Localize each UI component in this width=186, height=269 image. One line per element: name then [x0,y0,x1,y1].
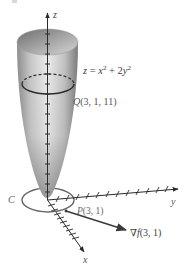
x-axis-label: x [83,255,87,265]
eq-equals: = [87,65,98,76]
point-q-label: Q(3, 1, 11) [73,97,117,107]
point-p-dot [65,210,68,213]
y-axis [48,186,179,202]
eq-plus: + 2 [106,65,122,76]
point-p-coords: (3, 1) [83,206,104,216]
nabla-symbol: ∇ [130,227,137,238]
paraboloid-figure: z z = x2 + 2y2 Q(3, 1, 11) C P(3, 1) ∇f(… [0,0,186,269]
point-p-label: P(3, 1) [77,207,103,217]
y-axis-label: y [171,197,175,207]
curve-c-label: C [8,195,15,205]
z-axis-label: z [53,10,57,20]
eq-y-exp: 2 [128,64,132,72]
point-q-coords: (3, 1, 11) [80,96,116,107]
gradient-args: (3, 1) [140,227,162,238]
surface-equation: z = x2 + 2y2 [83,66,131,77]
gradient-label: ∇f(3, 1) [130,228,161,238]
